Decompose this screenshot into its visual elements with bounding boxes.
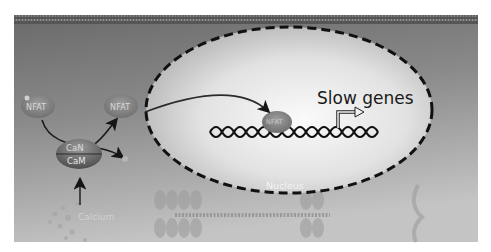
sarcolemma-membrane — [14, 15, 478, 24]
calmodulin-label: CaM — [67, 156, 85, 166]
slow-genes-label: Slow genes — [317, 88, 414, 108]
nfat-nuclear-label: NFAT — [266, 118, 283, 126]
nfat-pathway-diagram: NFAT NFAT NFAT CaN CaM Slow genes Nucleu… — [0, 0, 491, 252]
nfat-label: NFAT — [110, 103, 130, 112]
nucleus-label: Nucleus — [266, 180, 304, 191]
released-phosphate — [122, 156, 128, 162]
diagram-canvas — [0, 0, 491, 252]
calcineurin-label: CaN — [66, 143, 84, 153]
nfat-label: NFAT — [26, 103, 46, 112]
nucleus-envelope — [146, 27, 432, 193]
calcium-label: Calcium — [78, 212, 114, 222]
phosphate-dot — [25, 96, 30, 101]
